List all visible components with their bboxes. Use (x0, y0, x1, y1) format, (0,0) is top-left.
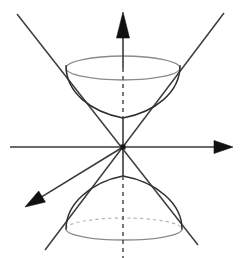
y-axis-arrow-icon (25, 191, 45, 207)
z-axis-group (117, 12, 130, 258)
hyperboloid-diagram-canvas (0, 0, 247, 258)
hyperboloid-figure: Two-sheeted hyperboloid with asymptotic … (0, 0, 247, 258)
asymptote-ne-sw (45, 13, 224, 250)
x-axis-arrow-icon (214, 141, 233, 154)
y-axis-group (25, 147, 123, 207)
lower-sheet-right-branch (123, 176, 182, 229)
y-axis-line (36, 147, 123, 200)
z-axis-arrow-icon (117, 12, 130, 38)
lower-sheet-group (66, 176, 182, 240)
lower-rim-front (66, 229, 182, 240)
asymptote-nw-se (17, 14, 198, 245)
origin-point (121, 145, 126, 150)
asymptotic-cone-group (17, 13, 224, 250)
upper-sheet-left-branch (66, 66, 123, 118)
lower-rim-back-hidden (66, 218, 182, 229)
